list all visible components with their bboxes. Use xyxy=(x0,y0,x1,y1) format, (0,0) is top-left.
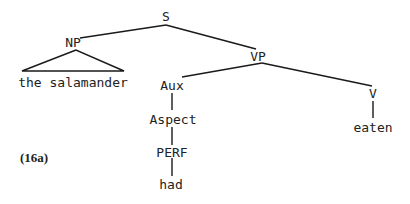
node-perf: PERF xyxy=(156,146,187,160)
np-triangle xyxy=(22,50,124,71)
edge-s-vp xyxy=(166,25,256,49)
edge-vp-aux xyxy=(182,63,262,77)
node-aspect: Aspect xyxy=(150,113,197,127)
node-np-leaf: the salamander xyxy=(18,76,128,90)
node-vp: VP xyxy=(250,50,266,64)
node-s: S xyxy=(162,10,170,24)
edge-s-np xyxy=(80,25,166,38)
node-v: V xyxy=(369,87,377,101)
tree-edges xyxy=(0,0,410,204)
node-aux: Aux xyxy=(160,79,183,93)
node-eaten: eaten xyxy=(353,121,392,135)
node-np: NP xyxy=(65,36,81,50)
node-had: had xyxy=(159,178,182,192)
example-number-label: (16a) xyxy=(20,151,48,165)
edge-vp-v xyxy=(262,63,372,86)
